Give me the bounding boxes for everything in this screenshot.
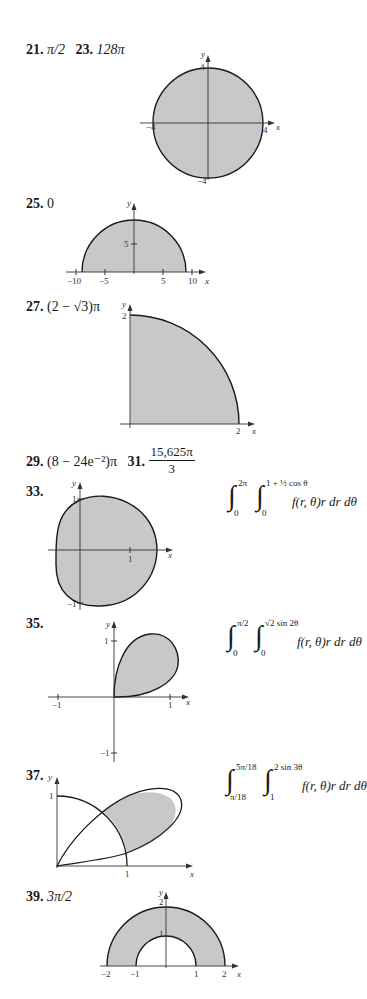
svg-text:y: y [158,887,163,897]
svg-text:2: 2 [159,897,164,907]
svg-text:−2: −2 [101,969,111,979]
svg-text:1: 1 [159,929,164,939]
svg-text:−1: −1 [130,969,140,979]
svg-text:2: 2 [222,969,227,979]
svg-text:x: x [236,969,241,979]
svg-text:1: 1 [194,969,199,979]
